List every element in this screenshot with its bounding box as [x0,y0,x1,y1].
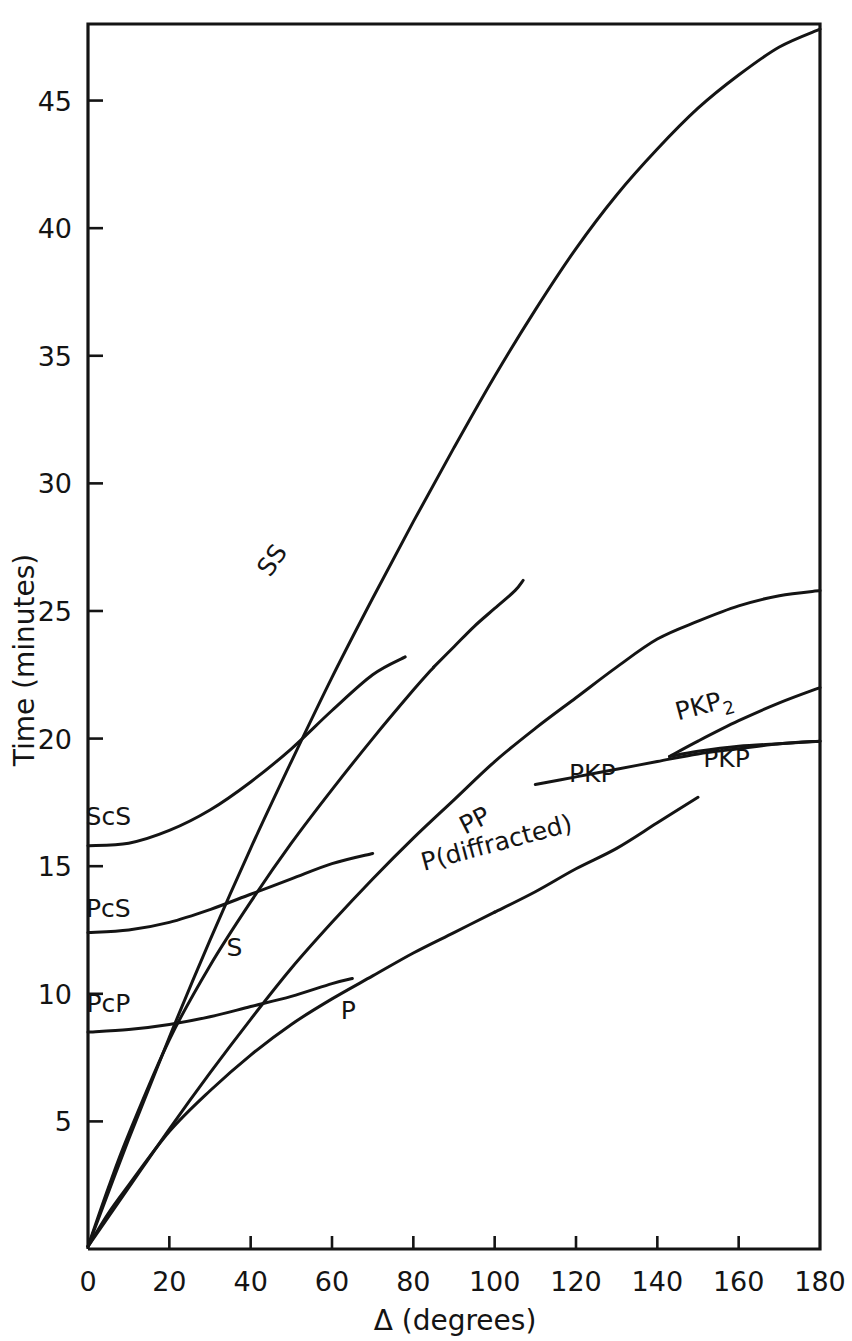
y-tick-label: 30 [38,468,72,499]
curve-s [88,667,434,1246]
plot-frame [88,24,820,1249]
curve-label-pkp: PKP [569,759,616,788]
y-tick-label: 10 [38,979,72,1010]
y-tick-label: 35 [38,341,72,372]
x-tick-label: 140 [632,1266,684,1297]
y-tick-label: 40 [38,213,72,244]
curve-ss [88,29,820,1246]
x-tick-label: 160 [713,1266,765,1297]
x-tick-label: 40 [233,1266,267,1297]
y-axis-title: Time (minutes) [8,554,41,768]
y-tick-label: 5 [55,1106,72,1137]
x-tick-label: 0 [79,1266,96,1297]
x-tick-label: 100 [469,1266,521,1297]
curve-label-s: S [226,933,242,962]
curve-pdiffracted [495,797,698,912]
axes-box [88,24,820,1249]
x-tick-label: 20 [152,1266,186,1297]
curve-label-pkp-right: PKP [703,744,750,773]
curve-label-pcs: PcS [86,894,131,923]
curve-ss-branch [434,580,523,667]
y-tick-label: 25 [38,596,72,627]
y-tick-label: 20 [38,724,72,755]
curve-label-pcp: PcP [86,989,130,1018]
curve-label-pdiffracted: P(diffracted) [418,809,575,877]
axis-tick-labels: 0204060801001201401601805101520253035404… [38,86,846,1297]
x-axis-title: Δ (degrees) [374,1304,537,1337]
curve-p [88,912,495,1246]
y-tick-label: 45 [38,86,72,117]
x-tick-label: 180 [794,1266,846,1297]
x-tick-label: 60 [315,1266,349,1297]
x-tick-label: 120 [550,1266,602,1297]
x-tick-label: 80 [396,1266,430,1297]
travel-time-chart: 0204060801001201401601805101520253035404… [0,0,852,1341]
chart-canvas: 0204060801001201401601805101520253035404… [0,0,852,1341]
curve-scs [88,657,405,846]
curve-label-p: P [341,996,356,1025]
curve-paths [88,29,820,1246]
curve-label-ss: SS [251,539,293,582]
curve-label-scs: ScS [86,802,131,831]
axis-ticks [88,101,739,1249]
curve-label-pkp2: PKP2 [672,683,737,731]
y-tick-label: 15 [38,851,72,882]
